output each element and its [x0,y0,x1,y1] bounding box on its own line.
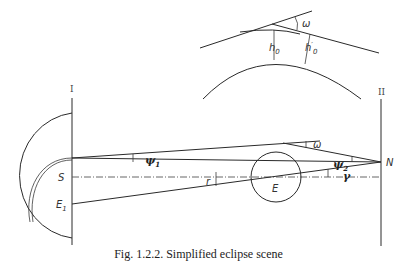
figure-caption: Fig. 1.2.2. Simplified eclipse scene [0,247,403,262]
plane-2-label: II [378,87,386,97]
inset-omega-arc [295,17,298,30]
inset-incoming-ray [200,11,312,48]
inset-omega-label: ω [302,18,310,29]
inset-h0-label: h0 [269,42,280,56]
sun-label: S [58,172,65,183]
ray-refracted-to-observer [283,143,381,162]
inset-earth-surface-arc [203,65,361,100]
observer-label: N [386,157,394,168]
plane-1-label: I [70,84,74,94]
inset-refraction-detail: ω h0 h′0 [200,11,379,99]
main-rays: E ψ1 r ω ψ2 γ [72,139,381,204]
earth-label: E [272,183,279,194]
eclipse-diagram: ω h0 h′0 I S E1 II N E ψ1 r ω ψ2 [0,0,403,269]
plane-2: II N [378,87,394,246]
caption-text: Fig. 1.2.2. Simplified eclipse scene [114,247,283,261]
inset-refracted-ray [272,24,379,53]
gamma-label: γ [343,170,351,183]
plane-1: I S E1 [20,84,74,245]
omega-label: ω [313,139,321,150]
psi-1-label: ψ1 [145,154,160,169]
ray-upper-incoming [72,141,320,158]
earth-1-label: E1 [56,199,67,213]
